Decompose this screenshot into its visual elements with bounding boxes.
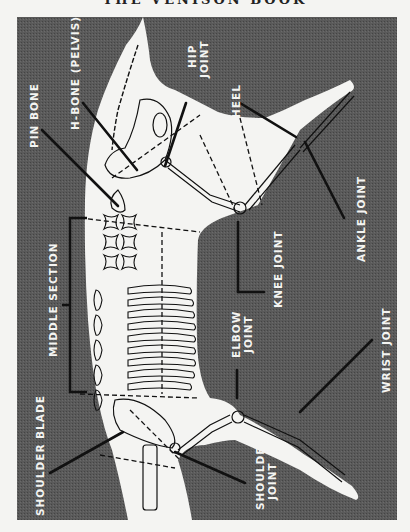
label-pin-bone: PIN BONE [28, 83, 40, 148]
label-elbow-joint-line2: JOINT [242, 315, 254, 354]
label-h-bone-pelvis: H-BONE (PELVIS) [69, 16, 81, 130]
label-middle-section: MIDDLE SECTION [47, 242, 59, 357]
label-hip-joint-line1: HIP [186, 45, 198, 68]
label-heel: HEEL [230, 84, 242, 118]
label-shoulder-joint-line1: SHOULDER [254, 438, 266, 510]
deer-skeleton-diagram: PIN BONE H-BONE (PELVIS) HIP JOINT HEEL … [0, 0, 410, 532]
label-shoulder-blade: SHOULDER BLADE [34, 395, 46, 516]
label-elbow-joint-line1: ELBOW [230, 311, 242, 358]
label-shoulder-joint-line2: JOINT [266, 462, 278, 501]
label-wrist-joint: WRIST JOINT [380, 307, 392, 393]
label-ankle-joint: ANKLE JOINT [355, 176, 367, 262]
label-knee-joint: KNEE JOINT [272, 230, 284, 308]
label-hip-joint-line2: JOINT [198, 40, 210, 79]
